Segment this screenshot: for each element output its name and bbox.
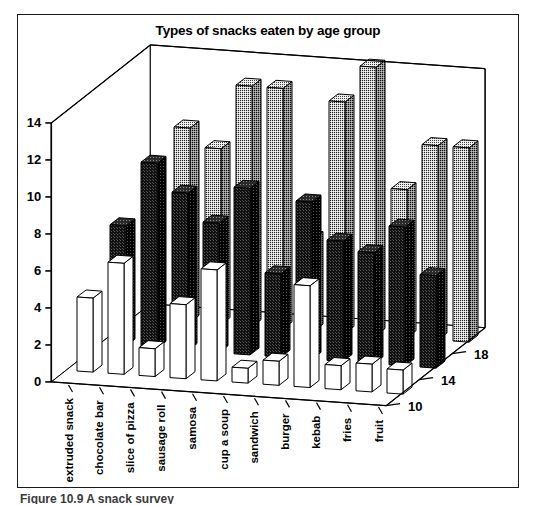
figure-caption: Figure 10.9 A snack survey [20,492,174,504]
chart-title: Types of snacks eaten by age group [18,23,518,38]
figure-frame: Types of snacks eaten by age group [17,14,519,488]
figure-page: Types of snacks eaten by age group [0,0,538,505]
